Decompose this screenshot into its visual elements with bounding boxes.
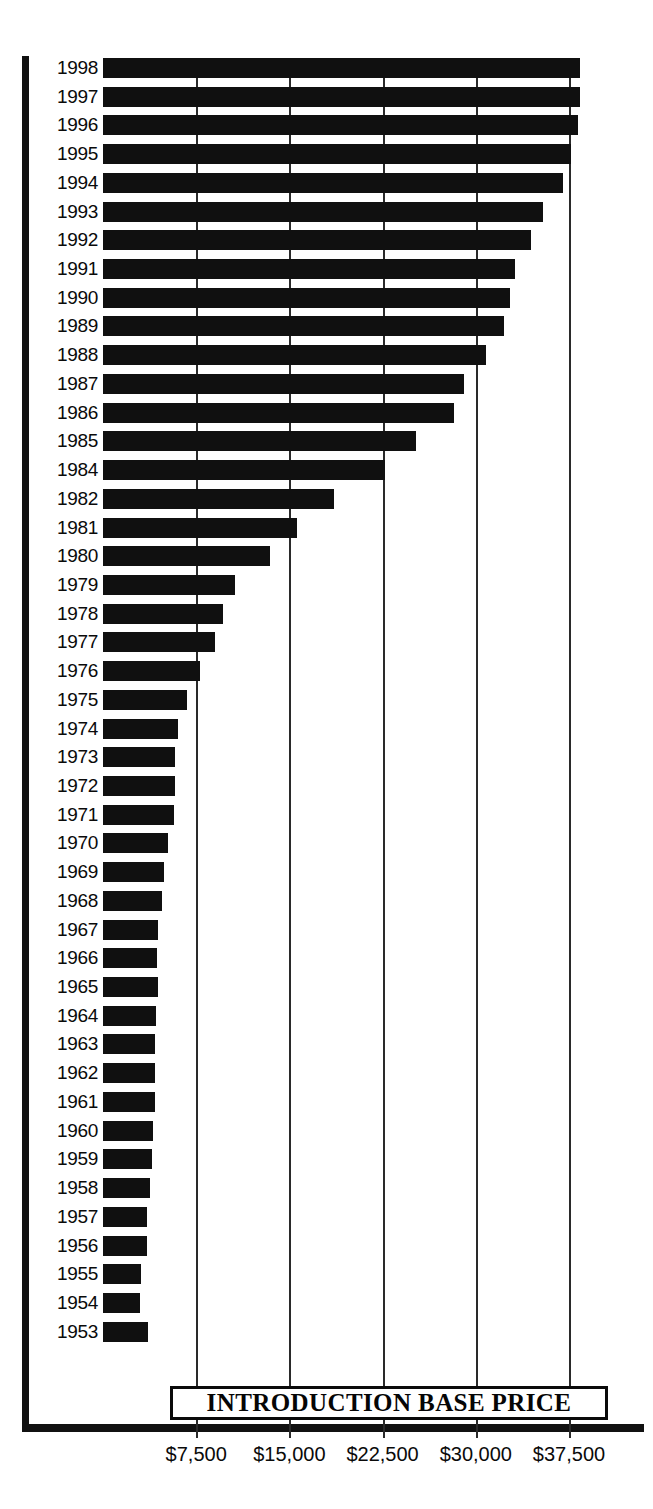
bar-row: 1978 xyxy=(0,603,653,631)
tick-label-30000: $30,000 xyxy=(426,1443,526,1465)
tick-label-15000: $15,000 xyxy=(239,1443,339,1465)
year-label-1969: 1969 xyxy=(36,861,98,882)
bar-1965 xyxy=(103,977,158,997)
bar-row: 1994 xyxy=(0,172,653,200)
bar-1955 xyxy=(103,1264,141,1284)
year-label-1963: 1963 xyxy=(36,1033,98,1054)
bar-1968 xyxy=(103,891,162,911)
bar-row: 1972 xyxy=(0,775,653,803)
bar-1980 xyxy=(103,546,270,566)
bar-1974 xyxy=(103,719,178,739)
bar-1981 xyxy=(103,518,297,538)
bar-1984 xyxy=(103,460,385,480)
bar-1995 xyxy=(103,144,571,164)
bar-row: 1966 xyxy=(0,947,653,975)
bar-row: 1987 xyxy=(0,373,653,401)
bar-1991 xyxy=(103,259,515,279)
bar-row: 1960 xyxy=(0,1120,653,1148)
bar-1979 xyxy=(103,575,235,595)
bar-row: 1980 xyxy=(0,545,653,573)
chart-title-text: INTRODUCTION BASE PRICE xyxy=(207,1390,572,1416)
bar-1958 xyxy=(103,1178,150,1198)
year-label-1956: 1956 xyxy=(36,1235,98,1256)
year-label-1975: 1975 xyxy=(36,689,98,710)
year-label-1986: 1986 xyxy=(36,402,98,423)
bar-1989 xyxy=(103,316,504,336)
bar-1985 xyxy=(103,431,416,451)
year-label-1982: 1982 xyxy=(36,488,98,509)
chart-page: 1998199719961995199419931992199119901989… xyxy=(0,0,653,1509)
bar-1976 xyxy=(103,661,200,681)
year-label-1995: 1995 xyxy=(36,143,98,164)
year-label-1965: 1965 xyxy=(36,976,98,997)
bar-1978 xyxy=(103,604,223,624)
year-label-1955: 1955 xyxy=(36,1263,98,1284)
bar-row: 1988 xyxy=(0,344,653,372)
bar-1959 xyxy=(103,1149,152,1169)
bar-row: 1967 xyxy=(0,919,653,947)
year-label-1987: 1987 xyxy=(36,373,98,394)
year-label-1957: 1957 xyxy=(36,1206,98,1227)
tick-label-22500: $22,500 xyxy=(333,1443,433,1465)
bar-row: 1995 xyxy=(0,143,653,171)
year-label-1985: 1985 xyxy=(36,430,98,451)
tickmark-22500 xyxy=(383,1418,385,1438)
tickmark-7500 xyxy=(196,1418,198,1438)
bar-row: 1984 xyxy=(0,459,653,487)
bar-1982 xyxy=(103,489,334,509)
bar-row: 1970 xyxy=(0,832,653,860)
bar-row: 1981 xyxy=(0,517,653,545)
bar-row: 1963 xyxy=(0,1033,653,1061)
year-label-1979: 1979 xyxy=(36,574,98,595)
bar-1997 xyxy=(103,87,580,107)
bar-row: 1985 xyxy=(0,430,653,458)
bar-1967 xyxy=(103,920,158,940)
year-label-1972: 1972 xyxy=(36,775,98,796)
bar-1990 xyxy=(103,288,510,308)
bar-row: 1996 xyxy=(0,114,653,142)
year-label-1966: 1966 xyxy=(36,947,98,968)
bar-1987 xyxy=(103,374,464,394)
year-label-1993: 1993 xyxy=(36,201,98,222)
year-label-1997: 1997 xyxy=(36,86,98,107)
bar-row: 1953 xyxy=(0,1321,653,1349)
bar-1962 xyxy=(103,1063,155,1083)
bar-1956 xyxy=(103,1236,147,1256)
year-label-1998: 1998 xyxy=(36,57,98,78)
bar-1973 xyxy=(103,747,175,767)
tick-label-37500: $37,500 xyxy=(519,1443,619,1465)
year-label-1961: 1961 xyxy=(36,1091,98,1112)
bar-row: 1976 xyxy=(0,660,653,688)
bar-1964 xyxy=(103,1006,156,1026)
year-label-1991: 1991 xyxy=(36,258,98,279)
bar-row: 1992 xyxy=(0,229,653,257)
tickmark-15000 xyxy=(289,1418,291,1438)
bar-row: 1956 xyxy=(0,1235,653,1263)
bar-row: 1969 xyxy=(0,861,653,889)
bar-row: 1997 xyxy=(0,86,653,114)
bar-1970 xyxy=(103,833,168,853)
year-label-1953: 1953 xyxy=(36,1321,98,1342)
bar-1993 xyxy=(103,202,543,222)
bar-1975 xyxy=(103,690,187,710)
bar-1953 xyxy=(103,1322,148,1342)
bar-chart-plot-area: 1998199719961995199419931992199119901989… xyxy=(0,0,653,1509)
bar-row: 1971 xyxy=(0,804,653,832)
bar-1992 xyxy=(103,230,531,250)
year-label-1973: 1973 xyxy=(36,746,98,767)
bar-row: 1959 xyxy=(0,1148,653,1176)
bar-1972 xyxy=(103,776,175,796)
year-label-1959: 1959 xyxy=(36,1148,98,1169)
year-label-1976: 1976 xyxy=(36,660,98,681)
year-label-1971: 1971 xyxy=(36,804,98,825)
bar-1996 xyxy=(103,115,578,135)
year-label-1992: 1992 xyxy=(36,229,98,250)
year-label-1984: 1984 xyxy=(36,459,98,480)
year-label-1970: 1970 xyxy=(36,832,98,853)
bar-1961 xyxy=(103,1092,155,1112)
bar-1986 xyxy=(103,403,454,423)
bar-row: 1955 xyxy=(0,1263,653,1291)
year-label-1960: 1960 xyxy=(36,1120,98,1141)
bar-1954 xyxy=(103,1293,140,1313)
year-label-1980: 1980 xyxy=(36,545,98,566)
